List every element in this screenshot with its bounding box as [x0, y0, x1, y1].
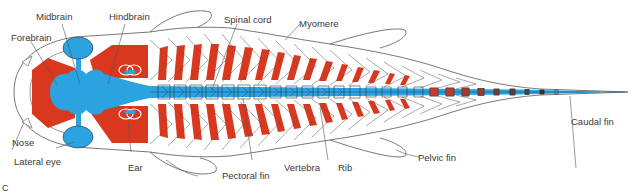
- label-pectoral-fin: Pectoral fin: [222, 170, 270, 181]
- pelvic-fin-outline: [330, 138, 406, 157]
- label-forebrain: Forebrain: [11, 32, 52, 43]
- nose-upper: [22, 56, 32, 66]
- label-vertebra: Vertebra: [284, 162, 320, 173]
- label-spinal-cord: Spinal cord: [224, 14, 272, 25]
- label-midbrain: Midbrain: [36, 11, 72, 22]
- label-ear: Ear: [128, 162, 143, 173]
- label-hindbrain: Hindbrain: [109, 11, 150, 22]
- figure-caption: C: [2, 183, 9, 192]
- label-rib: Rib: [338, 162, 352, 173]
- label-pelvic-fin: Pelvic fin: [418, 152, 456, 163]
- label-nose: Nose: [12, 137, 34, 148]
- pelvic-fin-upper-outline: [330, 29, 406, 48]
- label-myomere: Myomere: [299, 18, 339, 29]
- lateral-eye-lower: [63, 126, 93, 148]
- label-caudal-fin: Caudal fin: [571, 116, 614, 127]
- label-lateral-eye: Lateral eye: [14, 156, 61, 167]
- pectoral-fin-upper-outline: [150, 11, 211, 32]
- lateral-eye-upper: [63, 37, 93, 59]
